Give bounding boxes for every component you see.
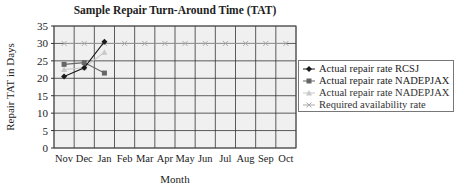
legend-label: Required availability rate bbox=[319, 99, 426, 111]
y-tick-label: 20 bbox=[37, 72, 49, 84]
x-tick-label: Feb bbox=[117, 153, 133, 164]
x-tick-label: May bbox=[175, 153, 195, 164]
legend-label: Actual repair rate NADEPJAX bbox=[319, 75, 449, 87]
y-tick-label: 5 bbox=[43, 125, 49, 137]
legend-swatch-icon bbox=[303, 77, 315, 85]
legend-swatch-icon bbox=[303, 65, 315, 73]
x-tick-label: Sep bbox=[258, 153, 274, 164]
legend: Actual repair rate RCSJActual repair rat… bbox=[298, 60, 454, 112]
x-tick-label: Jan bbox=[97, 153, 112, 164]
legend-item: Required availability rate bbox=[303, 99, 449, 111]
y-axis-ticks: 05101520253035 bbox=[37, 20, 54, 154]
x-tick-label: Jul bbox=[219, 153, 231, 164]
legend-item: Actual repair rate NADEPJAX bbox=[303, 87, 449, 99]
x-tick-label: Jun bbox=[198, 153, 213, 164]
y-tick-label: 10 bbox=[37, 107, 49, 119]
y-tick-label: 25 bbox=[37, 55, 49, 67]
x-tick-label: Apr bbox=[157, 153, 174, 164]
legend-label: Actual repair rate RCSJ bbox=[319, 63, 419, 75]
x-tick-label: Dec bbox=[76, 153, 93, 164]
legend-label: Actual repair rate NADEPJAX bbox=[319, 87, 449, 99]
legend-swatch-icon bbox=[303, 101, 315, 109]
x-tick-label: Aug bbox=[237, 153, 256, 164]
x-axis-ticks: NovDecJanFebMarAprMayJunJulAugSepOct bbox=[55, 153, 294, 164]
x-tick-label: Oct bbox=[278, 153, 293, 164]
legend-item: Actual repair rate RCSJ bbox=[303, 63, 449, 75]
y-tick-label: 15 bbox=[37, 90, 49, 102]
y-tick-label: 35 bbox=[37, 20, 49, 32]
legend-item: Actual repair rate NADEPJAX bbox=[303, 75, 449, 87]
y-tick-label: 0 bbox=[43, 142, 49, 154]
y-tick-label: 30 bbox=[37, 37, 49, 49]
x-tick-label: Mar bbox=[136, 153, 154, 164]
legend-swatch-icon bbox=[303, 89, 315, 97]
x-tick-label: Nov bbox=[55, 153, 74, 164]
